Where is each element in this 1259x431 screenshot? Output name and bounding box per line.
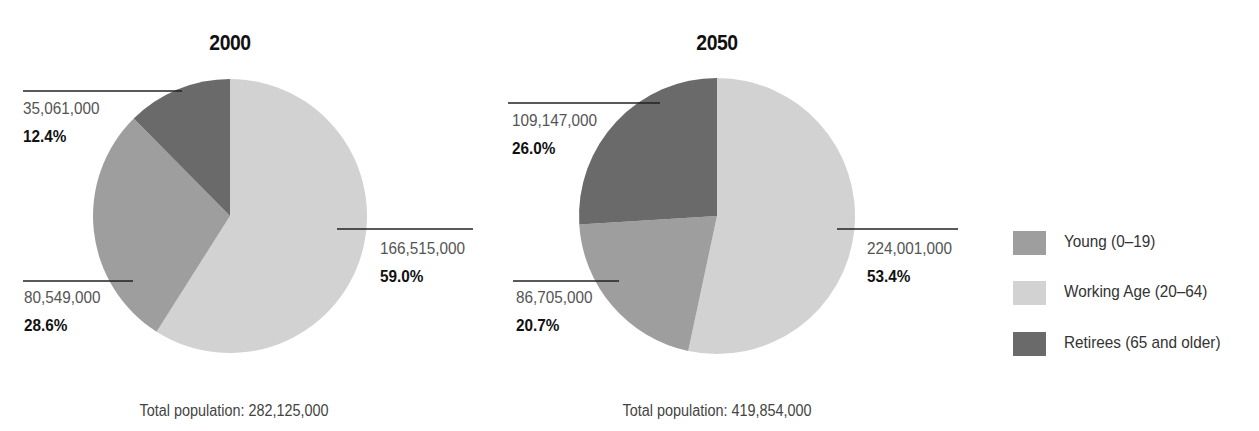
label-2050-young-value: 86,705,000	[516, 288, 593, 308]
legend-swatch-young	[1013, 231, 1046, 255]
legend-label-young: Young (0–19)	[1064, 232, 1155, 252]
label-2000-working-value: 166,515,000	[380, 239, 465, 259]
legend-swatch-retirees	[1013, 332, 1046, 356]
legend-label-working: Working Age (20–64)	[1064, 282, 1207, 302]
total-population-2000: Total population: 282,125,000	[140, 402, 329, 420]
pie-title-2050: 2050	[696, 30, 737, 56]
label-2050-retirees-value: 109,147,000	[512, 111, 597, 131]
label-2050-young-pct: 20.7%	[516, 316, 559, 336]
label-2050-retirees-pct: 26.0%	[512, 139, 555, 159]
label-2000-working-pct: 59.0%	[380, 267, 423, 287]
pie-slice-retirees	[579, 78, 717, 224]
label-2000-young-pct: 28.6%	[24, 316, 67, 336]
pie-title-2000: 2000	[209, 30, 250, 56]
label-2050-working-pct: 53.4%	[867, 267, 910, 287]
label-2000-young-value: 80,549,000	[24, 288, 101, 308]
label-2050-working-value: 224,001,000	[867, 239, 952, 259]
pie-2050	[579, 78, 855, 354]
label-2000-retirees-value: 35,061,000	[23, 99, 100, 119]
total-population-2050: Total population: 419,854,000	[623, 402, 812, 420]
legend-swatch-working	[1013, 281, 1046, 305]
pie-2000	[93, 79, 367, 353]
legend-label-retirees: Retirees (65 and older)	[1064, 333, 1220, 353]
label-2000-retirees-pct: 12.4%	[23, 127, 66, 147]
pie-charts	[0, 0, 1259, 431]
